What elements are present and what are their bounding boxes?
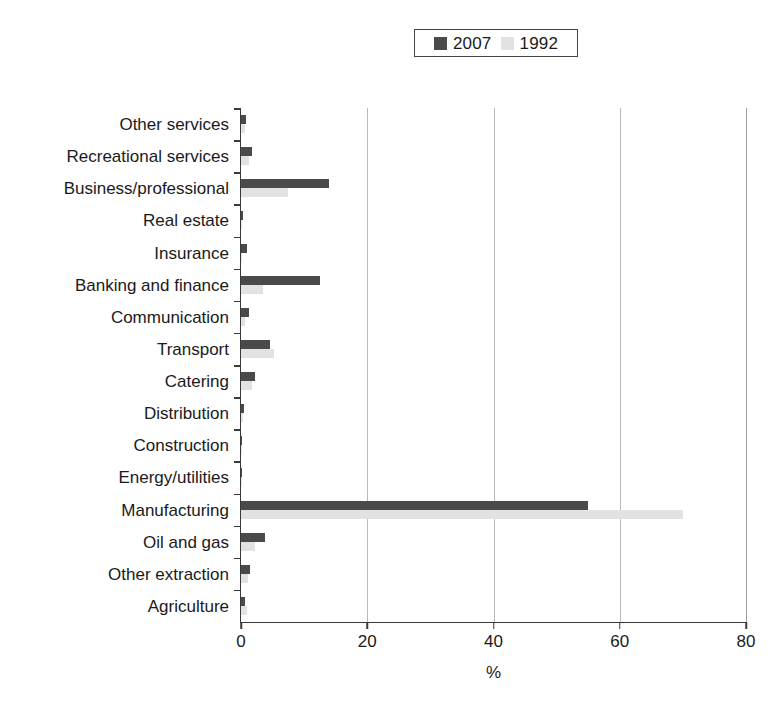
x-tick-20 xyxy=(367,622,369,629)
bar-1992 xyxy=(241,574,248,583)
legend-swatch-2007 xyxy=(434,37,447,50)
bar-1992 xyxy=(241,317,245,326)
y-axis-label: Oil and gas xyxy=(143,533,229,550)
y-tick xyxy=(234,494,241,496)
x-tick-label-80: 80 xyxy=(737,633,756,650)
bar-row: Transport xyxy=(241,333,746,365)
bar-2007 xyxy=(241,404,244,413)
bar-1992 xyxy=(241,510,683,519)
bar-2007 xyxy=(241,211,243,220)
bar-row: Banking and finance xyxy=(241,269,746,301)
y-axis-label: Manufacturing xyxy=(121,501,229,518)
x-tick-60 xyxy=(619,622,621,629)
y-tick xyxy=(234,397,241,399)
bar-2007 xyxy=(241,372,255,381)
y-tick xyxy=(234,204,241,206)
bar-2007 xyxy=(241,179,329,188)
x-tick-label-20: 20 xyxy=(358,633,377,650)
legend-entry-1992: 1992 xyxy=(501,35,559,52)
bar-row: Recreational services xyxy=(241,140,746,172)
y-tick xyxy=(234,269,241,271)
bar-1992 xyxy=(241,285,263,294)
y-axis-label: Business/professional xyxy=(64,180,229,197)
bar-row: Distribution xyxy=(241,397,746,429)
bar-row: Agriculture xyxy=(241,590,746,622)
gridline-80 xyxy=(746,108,747,622)
bar-row: Other extraction xyxy=(241,558,746,590)
bar-2007 xyxy=(241,115,246,124)
y-tick xyxy=(234,172,241,174)
y-axis-label: Transport xyxy=(157,340,229,357)
y-axis-label: Distribution xyxy=(144,405,229,422)
bar-row: Manufacturing xyxy=(241,494,746,526)
legend-label-1992: 1992 xyxy=(520,35,559,52)
bar-row: Business/professional xyxy=(241,172,746,204)
bar-1992 xyxy=(241,253,242,262)
bar-row: Communication xyxy=(241,301,746,333)
bar-1992 xyxy=(241,349,274,358)
y-tick xyxy=(234,526,241,528)
x-tick-label-60: 60 xyxy=(610,633,629,650)
bar-row: Insurance xyxy=(241,237,746,269)
bar-1992 xyxy=(241,606,247,615)
y-tick xyxy=(234,558,241,560)
legend-label-2007: 2007 xyxy=(453,35,492,52)
bar-row: Real estate xyxy=(241,204,746,236)
y-tick xyxy=(234,590,241,592)
y-tick xyxy=(234,365,241,367)
bar-row: Energy/utilities xyxy=(241,461,746,493)
x-tick-80 xyxy=(745,622,747,629)
x-tick-40 xyxy=(493,622,495,629)
bar-1992 xyxy=(241,156,249,165)
plot-area: Other servicesRecreational servicesBusin… xyxy=(240,108,746,623)
bar-chart: 2007 1992 Other servicesRecreational ser… xyxy=(0,0,779,717)
bar-2007 xyxy=(241,147,252,156)
y-axis-label: Catering xyxy=(165,373,229,390)
bar-1992 xyxy=(241,477,242,486)
bar-2007 xyxy=(241,533,265,542)
y-axis-label: Construction xyxy=(134,437,229,454)
y-tick xyxy=(234,333,241,335)
bar-1992 xyxy=(241,188,288,197)
bar-row: Catering xyxy=(241,365,746,397)
chart-legend: 2007 1992 xyxy=(414,29,578,57)
bar-row: Construction xyxy=(241,429,746,461)
y-tick xyxy=(234,461,241,463)
y-axis-label: Other services xyxy=(119,116,229,133)
bar-2007 xyxy=(241,501,588,510)
y-tick xyxy=(234,301,241,303)
y-axis-label: Other extraction xyxy=(108,565,229,582)
y-axis-label: Energy/utilities xyxy=(118,469,229,486)
bar-2007 xyxy=(241,244,247,253)
x-axis-title: % xyxy=(486,664,501,681)
bar-2007 xyxy=(241,436,242,445)
bar-1992 xyxy=(241,220,242,229)
bar-1992 xyxy=(241,445,242,454)
bar-1992 xyxy=(241,381,252,390)
bar-1992 xyxy=(241,124,245,133)
x-tick-label-40: 40 xyxy=(484,633,503,650)
y-axis-label: Agriculture xyxy=(148,597,229,614)
bar-2007 xyxy=(241,565,250,574)
bar-2007 xyxy=(241,340,270,349)
bar-1992 xyxy=(241,413,243,422)
legend-swatch-1992 xyxy=(501,37,514,50)
bar-2007 xyxy=(241,308,249,317)
y-tick xyxy=(234,140,241,142)
y-axis-label: Real estate xyxy=(143,212,229,229)
y-axis-label: Banking and finance xyxy=(75,276,229,293)
bar-1992 xyxy=(241,542,255,551)
x-tick-0 xyxy=(240,622,242,629)
y-axis-label: Insurance xyxy=(154,244,229,261)
bar-row: Other services xyxy=(241,108,746,140)
y-tick xyxy=(234,237,241,239)
bar-row: Oil and gas xyxy=(241,526,746,558)
y-axis-label: Recreational services xyxy=(66,148,229,165)
legend-entry-2007: 2007 xyxy=(434,35,492,52)
x-tick-label-0: 0 xyxy=(236,633,245,650)
bar-2007 xyxy=(241,468,242,477)
bar-2007 xyxy=(241,597,245,606)
bar-2007 xyxy=(241,276,320,285)
y-tick xyxy=(234,108,241,110)
y-tick xyxy=(234,429,241,431)
